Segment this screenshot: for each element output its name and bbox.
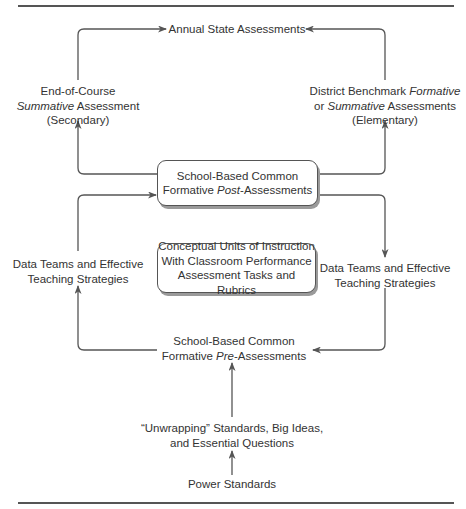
italic-term: Summative [17,100,75,112]
node-pre-assessments: School-Based Common Formative Pre-Assess… [157,334,311,363]
node-text-line: Formative Post-Assessments [158,183,317,198]
node-text-line: Formative Pre-Assessments [157,349,311,364]
node-text-line: and Essential Questions [137,436,327,451]
arrow-pre-to-datateams-left [78,286,157,350]
arrow-post-to-district [318,121,385,174]
node-text-line: Conceptual Units of Instruction [158,239,315,254]
arrow-post-to-datateams-right [318,195,385,257]
node-text: -Assessments [234,350,306,362]
node-text: Power Standards [188,478,276,490]
arrow-post-to-eoc [78,121,157,174]
node-text: Assessment [74,100,139,112]
italic-term: Post [217,184,240,196]
italic-term: Pre [216,350,234,362]
node-text-line: School-Based Common [157,334,311,349]
italic-term: Summative [327,100,385,112]
arrow-datateams-right-to-pre [313,288,385,350]
arrow-district-to-annual [306,29,385,80]
node-text: District Benchmark [310,85,410,97]
node-annual-state-assessments: Annual State Assessments [167,22,307,37]
node-text-line: With Classroom Performance [158,254,315,269]
node-text: Formative [163,184,217,196]
node-end-of-course-summative: End-of-Course Summative Assessment (Seco… [8,84,148,128]
node-text-line: Data Teams and Effective [3,257,153,272]
node-text: -Assessments [240,184,312,196]
node-text-line: Teaching Strategies [3,272,153,287]
arrow-datateams-left-to-post [78,195,156,251]
node-text-line: End-of-Course [8,84,148,99]
node-text-line: (Secondary) [8,113,148,128]
node-text-line: “Unwrapping” Standards, Big Ideas, [137,421,327,436]
node-power-standards: Power Standards [172,477,292,492]
node-text-line: Assessment Tasks and Rubrics [158,268,315,297]
node-text: Formative [162,350,216,362]
node-text-line: Teaching Strategies [310,276,460,291]
node-post-assessments-box: School-Based Common Formative Post-Asses… [157,160,318,206]
arrow-eoc-to-annual [78,29,166,80]
node-text-line: Summative Assessment [8,99,148,114]
node-text: or [314,100,327,112]
node-text: Assessments [385,100,456,112]
node-district-benchmark: District Benchmark Formative or Summativ… [305,84,465,128]
node-text: Annual State Assessments [169,23,306,35]
node-text-line: Data Teams and Effective [310,261,460,276]
node-text-line: (Elementary) [305,113,465,128]
node-unwrapping-standards: “Unwrapping” Standards, Big Ideas, and E… [137,421,327,450]
node-text-line: School-Based Common [158,169,317,184]
node-text-line: District Benchmark Formative [305,84,465,99]
node-data-teams-right: Data Teams and Effective Teaching Strate… [310,261,460,290]
node-data-teams-left: Data Teams and Effective Teaching Strate… [3,257,153,286]
node-text-line: or Summative Assessments [305,99,465,114]
node-conceptual-units-box: Conceptual Units of Instruction With Cla… [157,243,316,293]
italic-term: Formative [409,85,460,97]
